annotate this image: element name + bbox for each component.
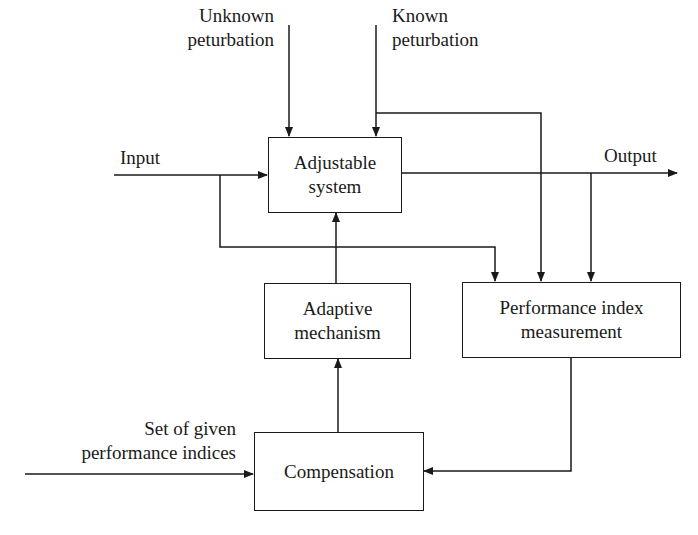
performance-to-compensation-arrow bbox=[424, 357, 571, 471]
compensation-block: Compensation bbox=[254, 432, 424, 511]
adjustable-system-label-1: Adjustable bbox=[294, 151, 376, 175]
performance-index-block: Performance index measurement bbox=[462, 282, 681, 358]
compensation-label: Compensation bbox=[284, 460, 394, 484]
adaptive-mechanism-label-2: mechanism bbox=[294, 321, 381, 345]
performance-indices-label: Set of given performance indices bbox=[30, 417, 236, 465]
adaptive-mechanism-block: Adaptive mechanism bbox=[264, 283, 411, 359]
performance-index-label-1: Performance index bbox=[499, 296, 643, 320]
output-label: Output bbox=[604, 144, 657, 168]
adjustable-system-label-2: system bbox=[309, 175, 362, 199]
adaptive-mechanism-label-1: Adaptive bbox=[303, 297, 373, 321]
performance-index-label-2: measurement bbox=[521, 320, 622, 344]
known-perturbation-label: Known peturbation bbox=[392, 4, 479, 52]
adjustable-system-block: Adjustable system bbox=[268, 137, 402, 213]
unknown-perturbation-label: Unknown peturbation bbox=[140, 4, 274, 52]
input-label: Input bbox=[120, 146, 160, 170]
